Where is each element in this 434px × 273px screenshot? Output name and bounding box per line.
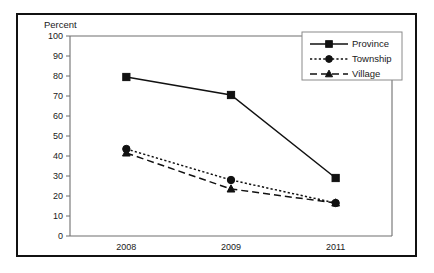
y-tick-label: 50 [53, 131, 63, 141]
data-point-village-2009 [227, 185, 235, 192]
y-tick-label: 60 [53, 111, 63, 121]
y-tick-label: 70 [53, 91, 63, 101]
series-layer [122, 73, 339, 206]
chart-figure: Percent 0102030405060708090100 200820092… [0, 0, 434, 273]
legend-label-province: Province [352, 38, 389, 49]
y-axis-ticks: 0102030405060708090100 [48, 31, 70, 241]
y-axis-title: Percent [44, 19, 77, 30]
x-tick-label: 2008 [116, 242, 136, 252]
y-tick-label: 30 [53, 171, 63, 181]
data-point-township-2009 [227, 176, 234, 183]
y-tick-label: 0 [58, 231, 63, 241]
y-tick-label: 90 [53, 51, 63, 61]
x-tick-label: 2009 [221, 242, 241, 252]
y-tick-label: 80 [53, 71, 63, 81]
x-axis-ticks: 200820092011 [116, 242, 345, 252]
data-point-province-2009 [227, 91, 234, 98]
x-tick-label: 2011 [326, 242, 345, 252]
legend-marker-province [326, 41, 333, 48]
legend-marker-township [326, 56, 333, 63]
data-point-province-2008 [123, 73, 130, 80]
data-point-province-2011 [332, 174, 339, 181]
legend-label-township: Township [352, 53, 392, 64]
y-tick-label: 20 [53, 191, 63, 201]
series-province [123, 73, 340, 181]
line-chart-canvas: Percent 0102030405060708090100 200820092… [0, 0, 434, 273]
y-tick-label: 40 [53, 151, 63, 161]
legend-label-village: Village [352, 68, 380, 79]
y-tick-label: 100 [48, 31, 63, 41]
chart-legend: ProvinceTownshipVillage [302, 32, 402, 80]
y-tick-label: 10 [53, 211, 63, 221]
